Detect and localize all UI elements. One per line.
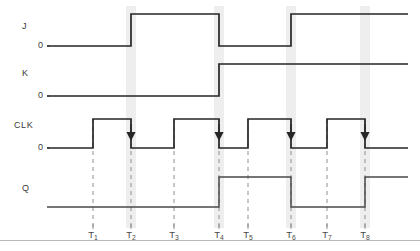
axis-rule	[0, 240, 420, 241]
trigger-arrow-t8	[360, 132, 369, 141]
waveform-k	[50, 64, 408, 96]
trigger-arrow-t2	[126, 132, 135, 141]
time-marker-t6: T6	[279, 229, 303, 240]
signal-label-j: J	[22, 21, 27, 31]
time-marker-t2: T2	[119, 229, 143, 240]
zero-level-label-clk: 0	[38, 142, 43, 152]
time-marker-t7: T7	[315, 229, 339, 240]
timing-diagram: J0K0CLK0Q T1T2T3T4T5T6T7T8	[0, 0, 420, 251]
trigger-arrow-t4	[214, 132, 223, 141]
time-marker-t5: T5	[236, 229, 260, 240]
time-marker-t1: T1	[81, 229, 105, 240]
zero-level-label-j: 0	[38, 40, 43, 50]
waveform-j	[50, 14, 408, 46]
zero-level-label-k: 0	[38, 90, 43, 100]
waveform-canvas	[0, 0, 420, 251]
waveform-q	[50, 177, 408, 207]
signal-label-clk: CLK	[14, 120, 33, 130]
waveform-clk	[50, 119, 408, 148]
time-marker-t4: T4	[207, 229, 231, 240]
time-marker-t3: T3	[162, 229, 186, 240]
time-marker-t8: T8	[353, 229, 377, 240]
signal-label-k: K	[22, 68, 29, 78]
signal-label-q: Q	[22, 183, 30, 193]
trigger-arrow-t6	[286, 132, 295, 141]
